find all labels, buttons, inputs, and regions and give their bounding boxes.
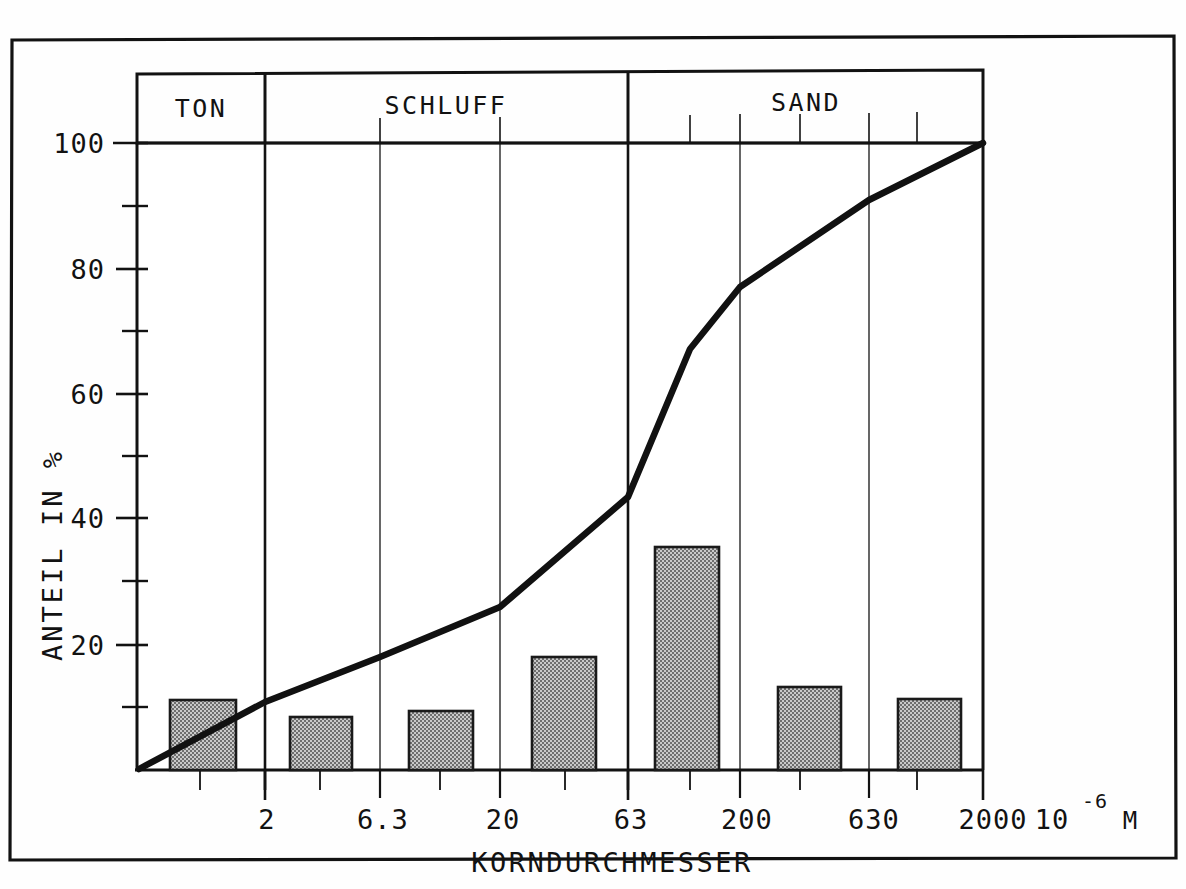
bar-medium-silt [409, 711, 473, 770]
bar-medium-sand [778, 687, 841, 770]
grain-size-distribution-chart: TON SCHLUFF SAND [0, 0, 1186, 889]
figure-container: TON SCHLUFF SAND [0, 0, 1186, 889]
x-axis-unit-base: 10 [1035, 804, 1070, 835]
x-tick-label-2000: 2000 [958, 804, 1027, 835]
x-tick-label-6p3: 6.3 [357, 804, 409, 835]
bar-coarse-sand [898, 699, 961, 770]
y-tick-label-60: 60 [70, 379, 105, 410]
y-tick-label-100: 100 [53, 128, 105, 159]
class-header-label-sand: SAND [771, 88, 841, 117]
x-axis-ticks [200, 770, 983, 800]
x-tick-label-20: 20 [486, 804, 521, 835]
bar-fine-sand [655, 547, 719, 770]
x-tick-label-63: 63 [614, 804, 649, 835]
x-axis-unit-suffix: M [1123, 807, 1137, 835]
x-axis-unit: 10 -6 M [1035, 789, 1137, 835]
y-tick-label-40: 40 [70, 503, 105, 534]
x-tick-label-2: 2 [258, 804, 275, 835]
x-axis-unit-exponent: -6 [1082, 789, 1108, 813]
class-header-boxes [137, 70, 983, 143]
class-header-labels: TON SCHLUFF SAND [175, 88, 841, 123]
y-axis-title: ANTEIL IN % [37, 449, 68, 661]
class-header-label-ton: TON [175, 94, 228, 123]
x-axis-tick-labels: 2 6.3 20 63 200 630 2000 [258, 804, 1027, 835]
class-header-label-schluff: SCHLUFF [385, 91, 508, 120]
bar-fine-silt [290, 717, 352, 770]
y-tick-label-80: 80 [70, 254, 105, 285]
x-tick-label-630: 630 [848, 804, 900, 835]
y-tick-label-20: 20 [70, 630, 105, 661]
x-axis-title: KORNDURCHMESSER [471, 847, 752, 878]
bar-coarse-silt [532, 657, 596, 770]
x-tick-label-200: 200 [721, 804, 773, 835]
